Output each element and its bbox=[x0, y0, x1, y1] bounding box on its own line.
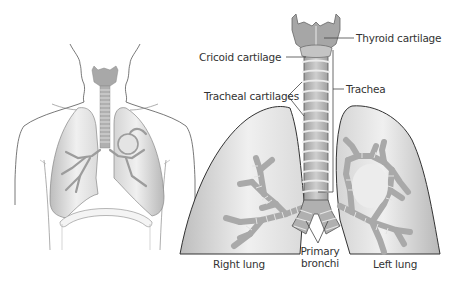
label-primary-bronchi: Primary bronchi bbox=[300, 245, 340, 269]
label-trachea: Trachea bbox=[346, 83, 386, 95]
label-cricoid-cartilage: Cricoid cartilage bbox=[199, 51, 281, 63]
label-primary-bronchi-line2: bronchi bbox=[300, 257, 340, 269]
label-tracheal-cartilages: Tracheal cartilages bbox=[204, 90, 299, 102]
cricoid-cartilage-shape bbox=[300, 45, 332, 58]
enlarged-figure bbox=[180, 14, 440, 254]
label-primary-bronchi-line1: Primary bbox=[300, 245, 340, 257]
label-thyroid-cartilage: Thyroid cartilage bbox=[356, 32, 441, 44]
right-lung-shape bbox=[180, 107, 304, 255]
label-left-lung: Left lung bbox=[373, 258, 417, 270]
label-right-lung: Right lung bbox=[213, 258, 265, 270]
torso-figure bbox=[15, 44, 195, 250]
